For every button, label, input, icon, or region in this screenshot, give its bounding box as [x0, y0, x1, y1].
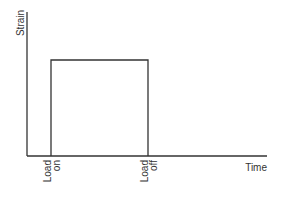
- load-off-label: Load off: [139, 160, 159, 182]
- x-axis-label: Time: [245, 162, 267, 173]
- strain-curve: [51, 60, 148, 156]
- load-on-line2: on: [51, 160, 62, 171]
- load-on-label: Load on: [42, 160, 62, 182]
- strain-time-diagram: Strain Time Load on Load off: [0, 0, 283, 198]
- y-axis-label: Strain: [15, 10, 26, 36]
- load-off-line2: off: [148, 160, 159, 171]
